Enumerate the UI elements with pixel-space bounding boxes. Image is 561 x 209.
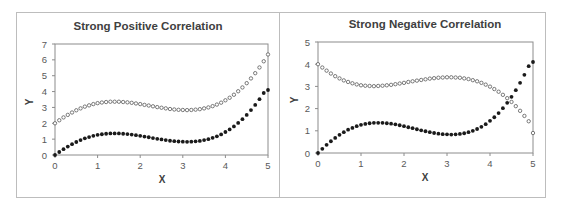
y-axis-label-positive: Y [24, 98, 35, 105]
data-point [355, 83, 358, 86]
data-point [83, 105, 86, 108]
y-tick-label: 3 [42, 102, 47, 113]
data-point [320, 147, 324, 151]
data-point [74, 140, 78, 144]
data-point [126, 132, 130, 136]
data-point [236, 121, 240, 125]
data-point [523, 73, 527, 77]
data-point [355, 124, 359, 128]
data-point [488, 119, 492, 123]
x-tick-label: 3 [180, 160, 185, 171]
data-point [475, 127, 479, 131]
data-point [177, 140, 181, 144]
data-point [458, 132, 462, 136]
data-point [407, 80, 410, 83]
data-point [249, 77, 252, 80]
data-point [406, 125, 410, 129]
data-point [342, 130, 346, 134]
data-point [514, 104, 517, 107]
data-point [471, 129, 475, 133]
data-point [228, 96, 231, 99]
data-point [471, 78, 474, 81]
data-point [531, 60, 535, 64]
data-point [351, 126, 355, 130]
y-tick-label: 3 [305, 81, 310, 92]
x-axis-label-positive: X [159, 174, 166, 185]
data-point [334, 74, 337, 77]
data-point [79, 107, 82, 110]
data-point [185, 108, 188, 111]
data-point [232, 93, 235, 96]
series-filled-markers [53, 88, 270, 157]
data-point [151, 105, 154, 108]
data-point [377, 84, 380, 87]
data-point [518, 81, 522, 85]
data-point [75, 109, 78, 112]
series-filled-markers [316, 60, 535, 155]
data-point [168, 107, 171, 110]
data-point [87, 104, 90, 107]
data-point [445, 76, 448, 79]
data-point [113, 100, 116, 103]
data-point [325, 69, 328, 72]
data-point [428, 77, 431, 80]
data-point [484, 83, 487, 86]
data-point [329, 72, 332, 75]
data-point [389, 122, 393, 126]
data-point [53, 122, 56, 125]
data-point [241, 117, 245, 121]
data-point [143, 135, 147, 139]
y-tick-label: 4 [305, 59, 310, 70]
data-point [198, 107, 201, 110]
data-point [62, 147, 66, 151]
data-point [415, 79, 418, 82]
data-point [262, 60, 265, 63]
data-point [510, 95, 514, 99]
data-point [177, 108, 180, 111]
data-point [432, 131, 436, 135]
data-point [518, 109, 521, 112]
y-tick-label: 2 [42, 118, 47, 129]
axes-negative: 012345012345 [305, 37, 536, 170]
data-point [108, 132, 112, 136]
data-point [134, 102, 137, 105]
data-point [441, 132, 445, 136]
data-point [207, 106, 210, 109]
data-point [497, 111, 501, 115]
data-point [228, 128, 232, 132]
data-point [143, 103, 146, 106]
data-point [505, 101, 509, 105]
data-point [316, 151, 320, 155]
data-point [363, 122, 367, 126]
data-point [62, 116, 65, 119]
data-point [91, 134, 95, 138]
x-tick-label: 1 [358, 158, 363, 169]
data-point [232, 125, 236, 129]
data-point [527, 120, 530, 123]
data-point [531, 131, 534, 134]
chart-title-positive: Strong Positive Correlation [74, 20, 223, 32]
data-point [445, 132, 449, 136]
data-point [121, 100, 124, 103]
data-point [424, 129, 428, 133]
data-point [385, 84, 388, 87]
data-point [338, 77, 341, 80]
data-point [53, 153, 57, 157]
data-point [189, 140, 193, 144]
data-point [160, 106, 163, 109]
x-axis-label-negative: X [422, 172, 429, 183]
data-point [254, 71, 257, 74]
data-point [211, 136, 215, 140]
data-point [185, 140, 189, 144]
data-point [450, 76, 453, 79]
data-point [168, 139, 172, 143]
plot-area-border [318, 42, 533, 153]
data-point [385, 121, 389, 125]
data-point [258, 66, 261, 69]
data-point [321, 66, 324, 69]
data-point [424, 78, 427, 81]
x-tick-label: 5 [530, 158, 535, 169]
data-point [458, 76, 461, 79]
data-point [480, 81, 483, 84]
data-point [70, 142, 74, 146]
